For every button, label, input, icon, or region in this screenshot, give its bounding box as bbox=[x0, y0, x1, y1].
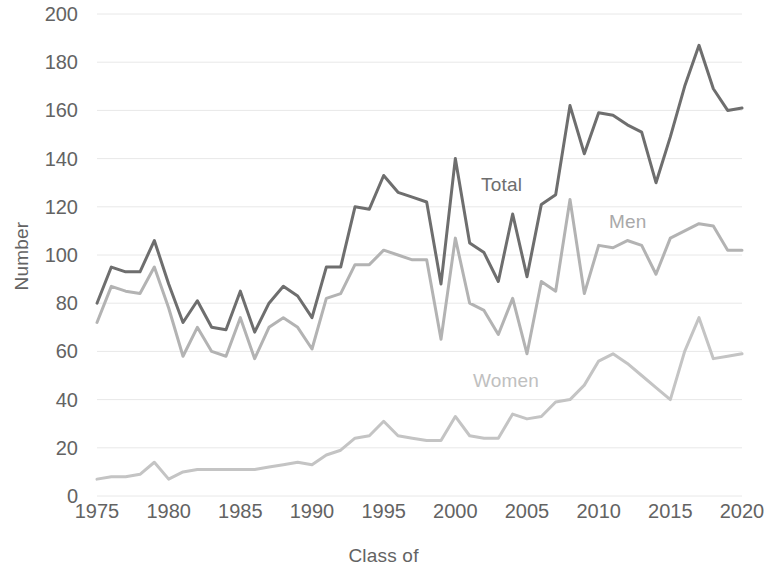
y-tick-label: 100 bbox=[0, 244, 88, 267]
y-tick-label: 200 bbox=[0, 3, 88, 26]
y-tick-label: 140 bbox=[0, 147, 88, 170]
x-axis-title: Class of bbox=[0, 545, 767, 567]
x-tick-label: 1975 bbox=[75, 500, 120, 523]
x-tick-label: 1995 bbox=[361, 500, 406, 523]
plot-area bbox=[97, 14, 742, 496]
series-label-women: Women bbox=[473, 370, 539, 392]
series-line-women bbox=[97, 318, 742, 479]
y-tick-label: 120 bbox=[0, 195, 88, 218]
x-tick-label: 1980 bbox=[146, 500, 191, 523]
x-tick-label: 2000 bbox=[433, 500, 478, 523]
y-tick-label: 60 bbox=[0, 340, 88, 363]
y-tick-label: 20 bbox=[0, 436, 88, 459]
x-tick-label: 2020 bbox=[720, 500, 765, 523]
x-tick-label: 1985 bbox=[218, 500, 263, 523]
plot-svg bbox=[97, 14, 742, 496]
y-axis-tick-labels: 020406080100120140160180200 bbox=[0, 0, 88, 580]
x-tick-label: 1990 bbox=[290, 500, 335, 523]
y-tick-label: 180 bbox=[0, 51, 88, 74]
x-tick-label: 2015 bbox=[648, 500, 693, 523]
series-line-total bbox=[97, 45, 742, 332]
x-tick-label: 2005 bbox=[505, 500, 550, 523]
y-tick-label: 40 bbox=[0, 388, 88, 411]
y-tick-label: 160 bbox=[0, 99, 88, 122]
series-label-total: Total bbox=[481, 174, 522, 196]
y-tick-label: 80 bbox=[0, 292, 88, 315]
series-label-men: Men bbox=[609, 211, 647, 233]
line-chart: Number 020406080100120140160180200 19751… bbox=[0, 0, 767, 580]
x-tick-label: 2010 bbox=[576, 500, 621, 523]
